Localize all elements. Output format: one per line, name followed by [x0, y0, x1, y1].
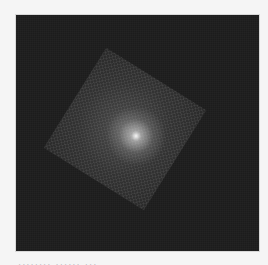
- central-bright-spot: [106, 106, 166, 166]
- page: ........ ...... ...: [0, 0, 268, 265]
- caption-truncated: ........ ...... ...: [18, 258, 97, 265]
- image-frame: [16, 15, 259, 251]
